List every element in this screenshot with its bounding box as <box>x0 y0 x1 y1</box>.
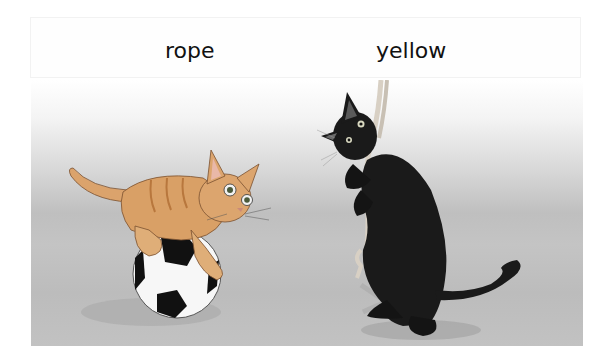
word-yellow: yellow <box>376 38 446 64</box>
word-rope: rope <box>165 38 215 64</box>
black-cat-icon <box>317 92 521 336</box>
cats-illustration <box>31 80 583 346</box>
word-label-box <box>30 17 581 78</box>
